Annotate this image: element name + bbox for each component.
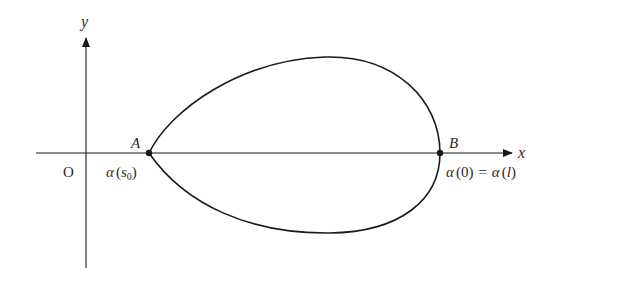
- diagram-canvas: y x O A B α(s0) α(0)=α(l): [0, 0, 631, 281]
- y-axis-label: y: [79, 13, 89, 31]
- point-b-annotation: α(0)=α(l): [446, 164, 516, 181]
- closed-curve: [149, 57, 440, 233]
- point-b-marker: [437, 150, 443, 156]
- x-axis-label: x: [517, 144, 525, 161]
- origin-label: O: [63, 164, 74, 180]
- point-b-label: B: [449, 135, 458, 151]
- point-a-marker: [146, 150, 152, 156]
- point-a-label: A: [130, 135, 141, 151]
- point-a-annotation: α(s0): [106, 164, 137, 182]
